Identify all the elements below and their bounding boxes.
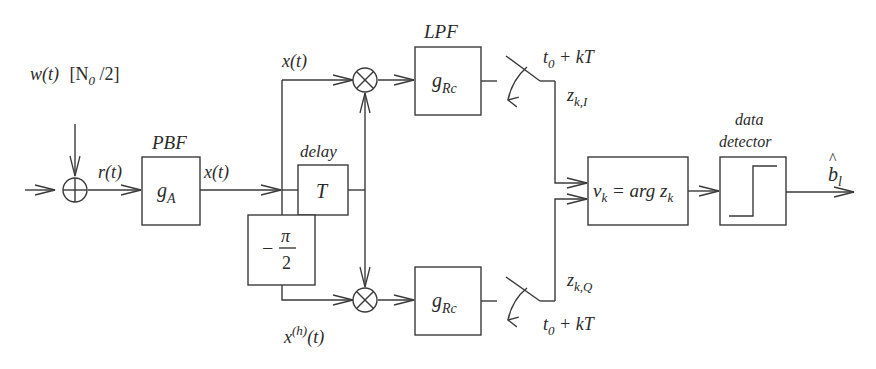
delay-content: T: [316, 180, 329, 202]
delay-title: delay: [300, 142, 337, 161]
lower-output-label: zk,Q: [566, 270, 593, 294]
upper-sample-time-label: t0 + kT: [543, 47, 596, 71]
lower-to-mixer-arrow: [282, 285, 353, 300]
lower-input-label: x(h)(t): [283, 323, 324, 348]
upper-output-label: zk,I: [566, 85, 588, 109]
phase-shift-minus: −: [262, 237, 273, 259]
noise-label: w(t) [N0 /2]: [30, 64, 120, 88]
lpf-title: LPF: [423, 21, 458, 42]
detector-title-line2: detector: [719, 133, 772, 150]
lower-mixer: [353, 288, 377, 312]
upper-mixer: [353, 68, 377, 92]
received-signal-label: r(t): [98, 162, 122, 183]
pbf-output-label: x(t): [203, 162, 229, 183]
output-hat: ^: [829, 150, 837, 167]
block-diagram: w(t) [N0 /2] r(t) PBF gA x(t) x(t) delay…: [0, 0, 876, 369]
summing-node: [63, 178, 87, 202]
phase-shift-num: π: [281, 226, 291, 246]
iq-merge-arrows: [555, 81, 587, 301]
pbf-title: PBF: [151, 132, 187, 153]
lower-sample-time-label: t0 + kT: [543, 314, 596, 338]
upper-input-label: x(t): [281, 51, 307, 72]
phase-shift-den: 2: [282, 253, 291, 273]
detector-title-line1: data: [735, 111, 763, 128]
